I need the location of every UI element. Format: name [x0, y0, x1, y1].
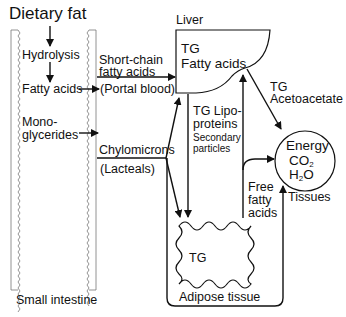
liver-label: Liver [176, 13, 203, 27]
fatty-acids-label: Fatty acids [22, 82, 82, 96]
liver-fatty-acids-label: Fatty acids [181, 56, 246, 72]
liver-tg-label: TG [181, 41, 200, 57]
small-intestine-label: Small intestine [16, 293, 97, 307]
portal-blood-label: (Portal blood) [100, 82, 175, 96]
adipose-tg-label: TG [189, 251, 206, 265]
adipose-tg-blob [176, 222, 254, 288]
tg-acetoacetate-label-2: Acetoacetate [270, 92, 343, 106]
arrow-ffa-to-tissues [243, 159, 274, 170]
secondary-particles-label-1: Secondary [193, 132, 241, 144]
h2o-label: H2O [289, 167, 314, 183]
energy-label: Energy [286, 138, 329, 154]
adipose-tissue-label: Adipose tissue [179, 290, 260, 304]
monoglycerides-label-2: glycerides [22, 128, 78, 142]
ffa-label-3: acids [248, 206, 277, 220]
chylomicrons-label: Chylomicrons [99, 143, 175, 157]
h2o-pre: H [289, 167, 299, 182]
co2-base: CO [289, 153, 309, 168]
secondary-particles-label-2: particles [193, 143, 230, 155]
arrow-chylomicrons-to-adipose [166, 158, 180, 217]
lacteals-label: (Lacteals) [100, 162, 155, 176]
dietary-fat-label: Dietary fat [9, 4, 86, 24]
lipoproteins-label-2: proteins [193, 117, 237, 131]
hydrolysis-label: Hydrolysis [22, 48, 80, 62]
h2o-post: O [303, 167, 314, 182]
small-intestine-shape [11, 30, 96, 312]
tissues-label: Tissues [288, 190, 331, 204]
short-chain-label-2: fatty acids [99, 65, 155, 79]
